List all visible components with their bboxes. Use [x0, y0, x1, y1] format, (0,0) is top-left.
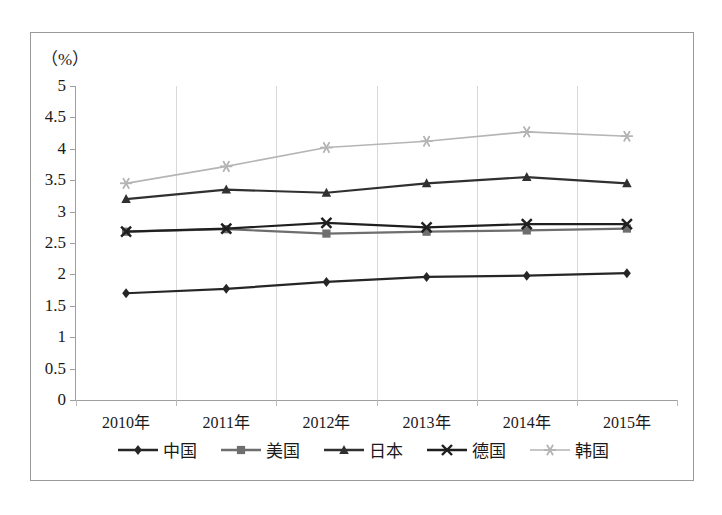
- chart-legend: 中国美国日本德国韩国: [31, 437, 693, 462]
- y-tick-label: 1: [58, 327, 67, 347]
- data-point-square: [322, 229, 330, 237]
- series-line: [126, 177, 627, 199]
- y-tick-label: 4.5: [45, 107, 66, 127]
- data-point-asterisk: [320, 142, 332, 152]
- data-point-diamond: [134, 445, 142, 455]
- series-layer: [76, 86, 677, 400]
- y-tick-label: 5: [58, 76, 67, 96]
- data-point-diamond: [122, 288, 130, 298]
- legend-item-美国[interactable]: 美国: [219, 437, 300, 462]
- y-tick-label: 2.5: [45, 233, 66, 253]
- x-tick-mark: [477, 400, 478, 406]
- legend-item-中国[interactable]: 中国: [116, 437, 197, 462]
- data-point-diamond: [323, 277, 331, 287]
- data-point-asterisk: [621, 131, 633, 141]
- data-point-asterisk: [220, 161, 232, 171]
- y-tick-label: 1.5: [45, 296, 66, 316]
- y-tick-label: 3.5: [45, 170, 66, 190]
- data-point-asterisk: [421, 136, 433, 146]
- x-tick-label: 2015年: [603, 409, 651, 433]
- chart-frame: （%） 54.543.532.521.510.50 2010年2011年2012…: [30, 32, 694, 481]
- x-tick-mark: [176, 400, 177, 406]
- y-tick-label: 0: [58, 390, 67, 410]
- data-point-diamond: [423, 272, 431, 282]
- legend-item-韩国[interactable]: 韩国: [528, 437, 609, 462]
- legend-label: 日本: [369, 437, 403, 462]
- legend-marker-asterisk-icon: [528, 441, 572, 459]
- legend-label: 韩国: [575, 437, 609, 462]
- legend-item-日本[interactable]: 日本: [322, 437, 403, 462]
- legend-marker-cross-icon: [425, 441, 469, 459]
- y-tick-label: 0.5: [45, 359, 66, 379]
- series-德国: [121, 218, 632, 237]
- data-point-diamond: [623, 268, 631, 278]
- series-line: [126, 132, 627, 183]
- data-point-square: [236, 445, 244, 453]
- x-tick-label: 2013年: [403, 409, 451, 433]
- series-line: [126, 273, 627, 293]
- x-tick-label: 2014年: [503, 409, 551, 433]
- legend-marker-triangle-icon: [322, 441, 366, 459]
- x-tick-mark: [276, 400, 277, 406]
- y-tick-label: 3: [58, 202, 67, 222]
- data-point-diamond: [523, 271, 531, 281]
- legend-marker-square-icon: [219, 441, 263, 459]
- legend-label: 德国: [472, 437, 506, 462]
- x-tick-label: 2012年: [302, 409, 350, 433]
- y-tick-label: 4: [58, 139, 67, 159]
- x-tick-label: 2010年: [102, 409, 150, 433]
- data-point-asterisk: [120, 178, 132, 188]
- x-tick-mark: [677, 400, 678, 406]
- legend-label: 美国: [266, 437, 300, 462]
- y-tick-label: 2: [58, 264, 67, 284]
- series-美国: [122, 224, 631, 237]
- data-point-diamond: [222, 284, 230, 294]
- series-日本: [121, 172, 631, 203]
- legend-item-德国[interactable]: 德国: [425, 437, 506, 462]
- x-tick-mark: [76, 400, 77, 406]
- series-中国: [122, 268, 631, 298]
- data-point-asterisk: [521, 127, 533, 137]
- x-tick-label: 2011年: [203, 409, 250, 433]
- x-tick-mark: [577, 400, 578, 406]
- y-axis-unit-label: （%）: [41, 45, 89, 70]
- data-point-asterisk: [544, 444, 556, 454]
- plot-area: 54.543.532.521.510.50 2010年2011年2012年201…: [76, 86, 677, 400]
- legend-marker-diamond-icon: [116, 441, 160, 459]
- legend-label: 中国: [163, 437, 197, 462]
- x-tick-mark: [377, 400, 378, 406]
